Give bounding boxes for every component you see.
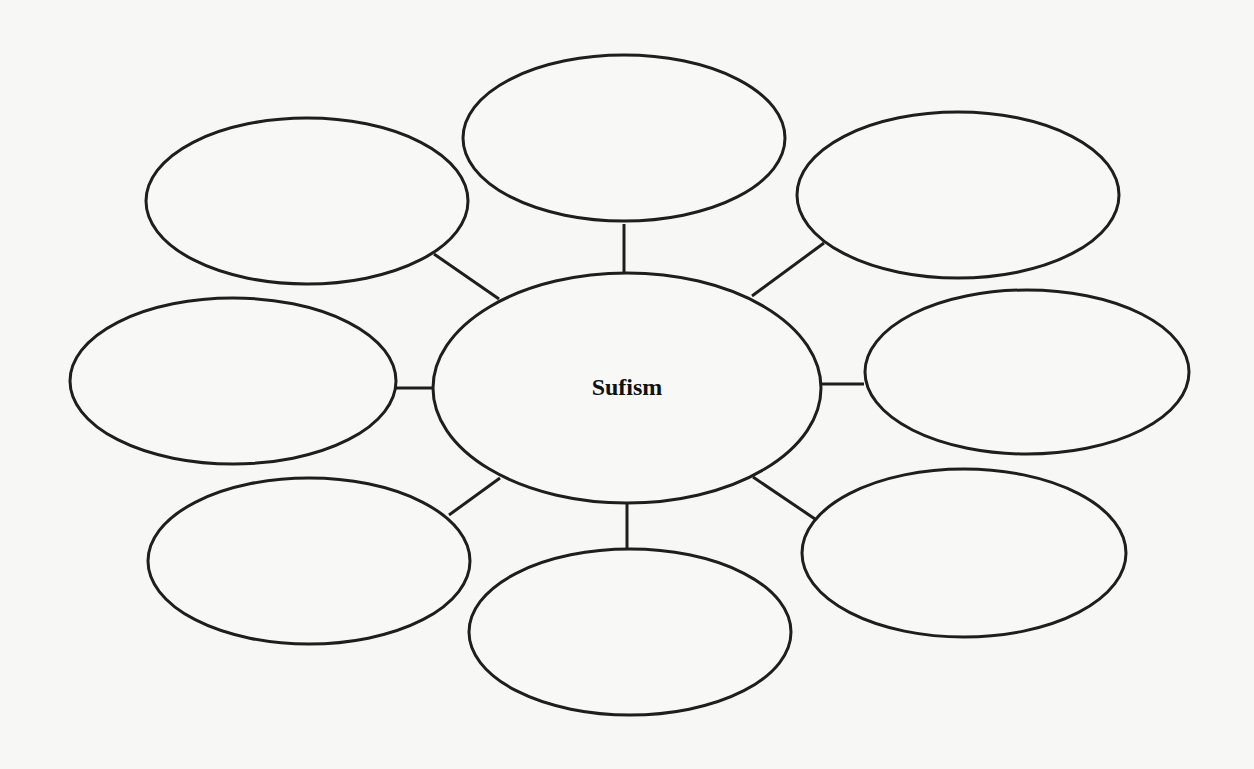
center-bubble-label: Sufism	[592, 374, 663, 400]
bubble-shape[interactable]	[146, 118, 468, 284]
connector-line-bottom-left	[449, 478, 500, 515]
center-bubble-group: Sufism	[433, 273, 821, 503]
satellite-bubble-bottom-left[interactable]	[148, 478, 470, 644]
connector-line-top-left	[434, 254, 499, 299]
bubble-shape[interactable]	[463, 55, 785, 221]
satellite-bubble-bottom[interactable]	[469, 549, 791, 715]
connector-line-bottom-right	[753, 477, 815, 519]
satellite-bubble-right[interactable]	[865, 290, 1189, 454]
bubble-shape[interactable]	[70, 298, 396, 464]
bubble-shape[interactable]	[865, 290, 1189, 454]
bubble-shape[interactable]	[469, 549, 791, 715]
connector-line-top-right	[752, 243, 824, 296]
bubble-map-diagram: Sufism	[0, 0, 1254, 769]
bubble-shape[interactable]	[148, 478, 470, 644]
satellite-bubble-top-left[interactable]	[146, 118, 468, 284]
bubble-shape[interactable]	[802, 469, 1126, 637]
bubble-shape[interactable]	[797, 112, 1119, 278]
worksheet-page: Sufism	[0, 0, 1254, 769]
satellite-bubble-left[interactable]	[70, 298, 396, 464]
satellite-bubble-top[interactable]	[463, 55, 785, 221]
satellite-bubble-top-right[interactable]	[797, 112, 1119, 278]
satellite-bubble-bottom-right[interactable]	[802, 469, 1126, 637]
